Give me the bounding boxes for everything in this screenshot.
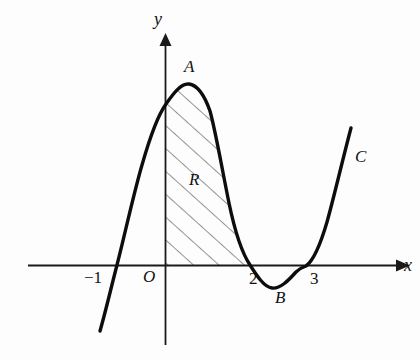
x-tick-label-two: 2 — [249, 270, 258, 287]
x-axis-label: x — [404, 256, 412, 274]
region-r-hatching — [150, 60, 280, 290]
origin-label: O — [143, 268, 155, 285]
math-figure: y x O −1 2 3 A B C R — [0, 0, 420, 360]
x-tick-label-minus-one: −1 — [84, 269, 102, 286]
point-label-a: A — [184, 58, 194, 75]
region-label-r: R — [189, 171, 199, 188]
point-label-b: B — [275, 289, 285, 306]
curve-label-c: C — [355, 148, 366, 165]
y-axis-label: y — [154, 10, 162, 28]
x-tick-label-three: 3 — [310, 270, 319, 287]
graph-canvas — [0, 0, 420, 360]
